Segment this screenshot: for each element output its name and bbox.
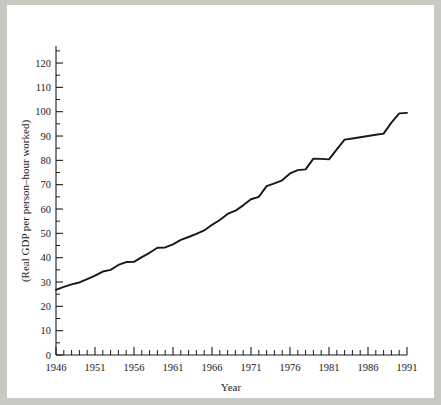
y-tick-label: 120 (35, 58, 51, 69)
x-axis-title: Year (221, 381, 242, 393)
y-axis-title: (Real GDP per person–hour worked) (19, 120, 32, 282)
y-tick-label: 30 (41, 277, 52, 288)
y-axis-tick-labels: 0102030405060708090100110120 (35, 58, 51, 361)
chart-figure: 0102030405060708090100110120 19461951195… (7, 5, 434, 398)
gdp-per-hour-line-chart: 0102030405060708090100110120 19461951195… (7, 5, 434, 398)
y-axis-ticks (56, 51, 63, 355)
y-tick-label: 80 (41, 155, 52, 166)
y-tick-label: 0 (46, 350, 51, 361)
y-tick-label: 100 (35, 106, 51, 117)
axes-group (56, 46, 407, 355)
y-tick-label: 50 (41, 228, 52, 239)
x-tick-label: 1966 (202, 362, 223, 373)
y-tick-label: 20 (41, 301, 52, 312)
x-tick-label: 1946 (46, 362, 67, 373)
y-tick-label: 10 (41, 325, 52, 336)
x-tick-label: 1976 (280, 362, 301, 373)
y-tick-label: 40 (41, 252, 52, 263)
x-tick-label: 1981 (319, 362, 340, 373)
x-tick-label: 1991 (397, 362, 418, 373)
x-tick-label: 1986 (358, 362, 379, 373)
y-tick-label: 70 (41, 179, 52, 190)
x-tick-label: 1971 (241, 362, 262, 373)
x-tick-label: 1951 (85, 362, 106, 373)
x-tick-label: 1956 (124, 362, 145, 373)
x-axis-ticks (56, 347, 407, 355)
y-tick-label: 90 (41, 131, 52, 142)
x-tick-label: 1961 (163, 362, 184, 373)
x-axis-tick-labels: 1946195119561961196619711976198119861991 (46, 362, 418, 373)
data-series-line (56, 113, 407, 290)
y-tick-label: 110 (36, 82, 51, 93)
y-tick-label: 60 (41, 204, 52, 215)
